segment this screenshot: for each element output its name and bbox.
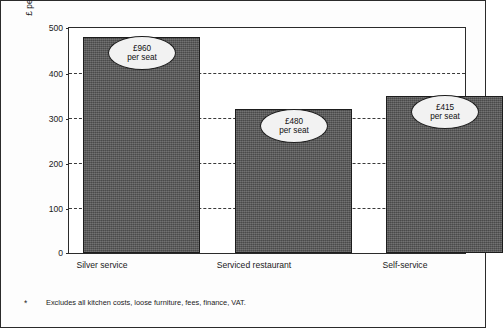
callout-amount: £415 [436,103,454,112]
callout-amount: £480 [285,117,303,126]
callout-silver-service: £960 per seat [108,36,176,70]
footnote-marker: * [24,298,27,308]
callout-unit: per seat [127,53,157,62]
ytick-mark-200 [66,164,70,165]
xtick-label-self-service: Self-service [325,260,485,270]
ytick-label-100: 100 [49,204,63,214]
ytick-label-500: 500 [49,23,63,33]
ytick-mark-500 [66,28,70,29]
ytick-mark-100 [66,209,70,210]
ytick-label-300: 300 [49,114,63,124]
xtick-label-silver-service: Silver service [22,260,182,270]
footnote-text: Excludes all kitchen costs, loose furnit… [46,298,246,307]
ytick-label-0: 0 [58,248,63,258]
xtick-label-serviced-restaurant: Serviced restaurant [174,260,334,270]
ytick-label-400: 400 [49,69,63,79]
ytick-mark-300 [66,119,70,120]
callout-unit: per seat [279,126,309,135]
callout-unit: per seat [430,112,460,121]
callout-serviced-restaurant: £480 per seat [260,109,328,143]
ytick-mark-400 [66,74,70,75]
callout-amount: £960 [133,44,151,53]
plot-area: 0 100 200 300 400 500 £960 per seat [68,27,466,254]
y-axis-title: £ per sq m dining area * [25,0,34,56]
ytick-label-200: 200 [49,159,63,169]
callout-self-service: £415 per seat [411,95,479,129]
ytick-mark-0 [66,253,70,254]
